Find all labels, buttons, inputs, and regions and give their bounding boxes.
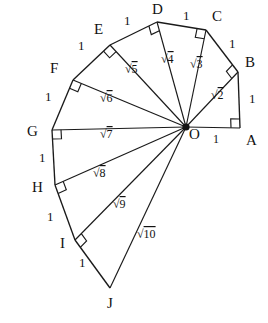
unit-edges-group: [52, 22, 240, 288]
radius-length-label-OG: √7: [100, 127, 113, 141]
vertex-label-H: H: [32, 179, 43, 195]
unit-edge-DE: [110, 22, 157, 45]
spiral-of-theodorus-diagram: ABCDEFGHIJO 111111111 1√2√3√4√5√6√7√8√9√…: [0, 0, 268, 323]
radius-length-label-OI: √9: [113, 197, 126, 211]
vertex-label-B: B: [245, 54, 255, 70]
radius-length-label-OA: 1: [213, 132, 219, 146]
unit-length-label-DE: 1: [124, 13, 131, 28]
unit-length-label-FG: 1: [45, 89, 52, 104]
radius-OG: [52, 127, 186, 130]
radius-OH: [55, 127, 186, 185]
vertex-label-O: O: [189, 126, 200, 142]
right-angle-at-I: [80, 234, 86, 248]
unit-length-label-GH: 1: [39, 150, 46, 165]
unit-length-label-HI: 1: [47, 209, 54, 224]
unit-length-label-EF: 1: [78, 38, 85, 53]
radius-length-label-OB: √2: [211, 88, 224, 102]
unit-length-label-BC: 1: [229, 36, 236, 51]
vertex-label-F: F: [50, 60, 58, 76]
radius-OC: [186, 30, 206, 127]
unit-edge-AB: [238, 72, 240, 128]
right-angle-at-G: [53, 130, 62, 139]
vertex-label-A: A: [246, 132, 257, 148]
vertex-label-I: I: [60, 235, 65, 251]
vertex-label-D: D: [152, 1, 163, 17]
unit-edge-GH: [52, 130, 55, 185]
right-angle-marks-group: [53, 26, 240, 247]
radius-length-label-OD: √4: [161, 52, 174, 66]
unit-edge-FG: [52, 80, 73, 130]
unit-edge-CD: [157, 22, 206, 30]
right-angle-at-D: [149, 26, 160, 35]
radius-OF: [73, 80, 186, 127]
vertex-label-J: J: [107, 295, 113, 311]
radius-length-label-OH: √8: [93, 166, 106, 180]
vertex-label-G: G: [27, 123, 38, 139]
radius-length-label-OE: √5: [125, 62, 138, 76]
diagram-canvas: ABCDEFGHIJO 111111111 1√2√3√4√5√6√7√8√9√…: [0, 0, 268, 323]
vertex-label-E: E: [94, 21, 103, 37]
vertex-labels-group: ABCDEFGHIJO: [27, 1, 257, 311]
radius-length-label-OJ: √10: [137, 227, 156, 241]
right-angle-at-A: [231, 119, 240, 128]
unit-length-label-IJ: 1: [79, 255, 86, 270]
radius-length-label-OF: √6: [100, 91, 113, 105]
radius-OI: [75, 127, 186, 240]
vertex-label-C: C: [212, 8, 222, 24]
radius-length-label-OC: √3: [190, 57, 203, 71]
unit-length-label-AB: 1: [249, 91, 256, 106]
radius-length-labels-group: 1√2√3√4√5√6√7√8√9√10: [93, 52, 224, 241]
right-angle-at-B: [226, 65, 232, 79]
unit-length-label-CD: 1: [183, 8, 190, 23]
right-angle-at-E: [104, 51, 117, 58]
